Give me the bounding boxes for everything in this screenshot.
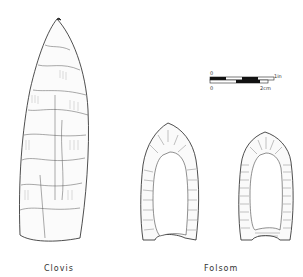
- folsom-label: Folsom: [204, 264, 238, 273]
- scale-bottom-start: 0: [210, 85, 213, 91]
- folsom-point-drawing-1: [141, 123, 199, 240]
- clovis-point-drawing: [19, 18, 88, 241]
- projectile-points-illustration: [0, 0, 303, 277]
- scale-top-start: 0: [210, 70, 213, 76]
- scale-top-end: 1in: [274, 73, 282, 79]
- clovis-label: Clovis: [44, 264, 74, 273]
- folsom-point-drawing-2: [239, 132, 293, 240]
- scale-bar: [210, 77, 274, 83]
- scale-bottom-end: 2cm: [260, 85, 271, 91]
